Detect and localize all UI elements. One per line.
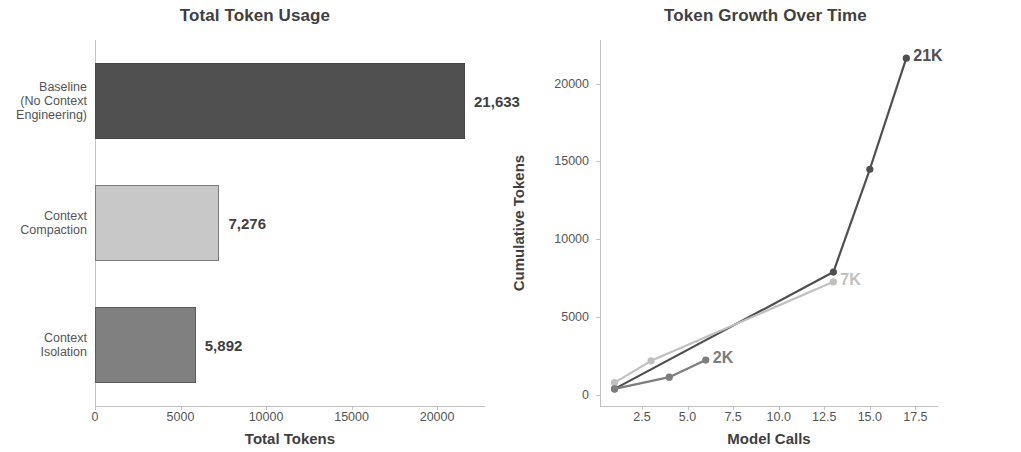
bar-row[interactable]: 7,276ContextCompaction [95,185,485,261]
bar-row[interactable]: 21,633Baseline(No ContextEngineering) [95,63,485,139]
line-x-tick-label: 7.5 [724,410,741,424]
line-y-tickmark [596,161,600,162]
line-data-point[interactable] [666,374,673,381]
line-y-axis-label: Cumulative Tokens [510,155,527,291]
bar-x-tick-label: 0 [92,410,99,424]
bar-x-tick-label: 10000 [249,410,284,424]
total-token-usage-chart: Total Token Usage 21,633Baseline(No Cont… [0,0,510,452]
bar-x-tick-label: 5000 [167,410,195,424]
bar-row[interactable]: 5,892ContextIsolation [95,307,485,383]
bar-plot-area: 21,633Baseline(No ContextEngineering)7,2… [95,40,485,406]
line-end-annotation: 21K [913,47,942,65]
line-data-point[interactable] [611,385,618,392]
line-chart-title: Token Growth Over Time [510,6,1021,26]
line-x-tick-label: 10.0 [767,410,791,424]
line-x-tick-label: 2.5 [633,410,650,424]
line-data-point[interactable] [647,357,654,364]
bar-x-tick-label: 15000 [334,410,369,424]
line-series-path[interactable] [615,282,834,383]
line-y-tick-label: 10000 [510,232,589,246]
line-end-annotation: 2K [713,349,733,367]
bar-x-axis-line [95,406,485,407]
bar-x-tick-label: 20000 [420,410,455,424]
bar-value-label: 7,276 [228,214,266,231]
line-data-point[interactable] [702,356,709,363]
bar-category-label: ContextCompaction [20,209,87,237]
token-usage-figure: Total Token Usage 21,633Baseline(No Cont… [0,0,1021,452]
line-end-annotation: 7K [840,271,860,289]
line-y-tickmark [596,395,600,396]
line-series-path[interactable] [615,58,907,389]
line-x-tick-label: 5.0 [679,410,696,424]
token-growth-chart: Token Growth Over Time Cumulative Tokens… [510,0,1021,452]
line-data-point[interactable] [830,278,837,285]
line-y-tick-label: 15000 [510,154,589,168]
line-data-point[interactable] [866,166,873,173]
bar-value-label: 5,892 [205,336,243,353]
line-y-tick-label: 0 [510,388,589,402]
bar-x-axis-label: Total Tokens [95,430,485,447]
line-data-point[interactable] [903,55,910,62]
line-y-tickmark [596,239,600,240]
bar-rect[interactable] [95,185,219,261]
line-x-tick-label: 17.5 [903,410,927,424]
line-x-tick-label: 15.0 [858,410,882,424]
bar-category-label: Baseline(No ContextEngineering) [16,80,87,122]
line-plot-area [600,40,930,406]
line-x-axis-line [600,406,938,407]
line-y-tick-label: 20000 [510,77,589,91]
line-data-point[interactable] [611,379,618,386]
bar-rect[interactable] [95,63,465,139]
line-y-tickmark [596,84,600,85]
line-series-svg [600,40,930,406]
line-data-point[interactable] [830,268,837,275]
line-x-tick-label: 12.5 [812,410,836,424]
line-x-axis-label: Model Calls [600,430,938,447]
bar-rect[interactable] [95,307,196,383]
line-y-tickmark [596,317,600,318]
bar-chart-title: Total Token Usage [0,6,510,26]
line-y-tick-label: 5000 [510,310,589,324]
bar-category-label: ContextIsolation [40,331,87,359]
